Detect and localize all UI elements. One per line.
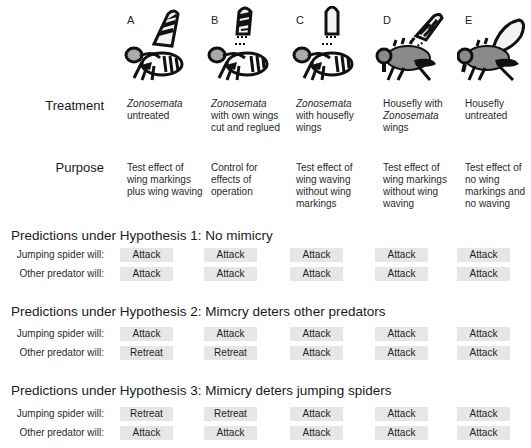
- h2-other-d: Attack: [375, 346, 428, 360]
- h2-other-predator-label: Other predator will:: [0, 347, 104, 358]
- treatment-c-detail: with housefly wings: [296, 110, 354, 133]
- treatment-b-species: Zonosemata: [211, 98, 267, 109]
- h1-spider-a: Attack: [120, 248, 173, 262]
- purpose-e: Test effect of no wing markings and no w…: [465, 162, 531, 210]
- purpose-d: Test effect of wing markings without win…: [383, 162, 461, 210]
- h1-other-a: Attack: [120, 267, 173, 281]
- purpose-b: Control for effects of operation: [211, 162, 277, 198]
- h1-spider-c: Attack: [290, 248, 343, 262]
- treatment-a-detail: untreated: [127, 110, 169, 121]
- h2-spider-b: Attack: [204, 327, 257, 341]
- treatment-b-detail: with own wings cut and reglued: [211, 110, 280, 133]
- zonosemata-fly-clear-wing-icon-c: [290, 6, 362, 84]
- h2-spider-d: Attack: [375, 327, 428, 341]
- treatment-d-species: Zonosemata: [383, 110, 439, 121]
- h1-other-b: Attack: [204, 267, 257, 281]
- h2-spider-e: Attack: [457, 327, 510, 341]
- treatment-a: Zonosemata untreated: [127, 98, 209, 122]
- h3-spider-a: Retreat: [120, 407, 173, 421]
- h3-other-b: Attack: [204, 426, 257, 440]
- h2-jumping-spider-label: Jumping spider will:: [0, 328, 104, 339]
- h3-jumping-spider-label: Jumping spider will:: [0, 408, 104, 419]
- treatment-label: Treatment: [0, 98, 104, 113]
- h3-other-d: Attack: [375, 426, 428, 440]
- zonosemata-fly-icon-a: [122, 6, 194, 84]
- h3-other-c: Attack: [290, 426, 343, 440]
- h1-other-predator-label: Other predator will:: [0, 268, 104, 279]
- h1-spider-d: Attack: [375, 248, 428, 262]
- housefly-clear-wing-icon-e: [457, 6, 529, 84]
- treatment-e: Housefly untreated: [465, 98, 517, 122]
- treatment-d-prefix: Housefly with: [383, 98, 442, 109]
- treatment-c: Zonosemata with housefly wings: [296, 98, 372, 134]
- treatment-b: Zonosemata with own wings cut and reglue…: [211, 98, 287, 134]
- housefly-striped-wing-icon-d: [374, 6, 446, 84]
- h3-other-a: Attack: [120, 426, 173, 440]
- purpose-a: Test effect of wing markings plus wing w…: [127, 162, 203, 198]
- h3-spider-c: Attack: [290, 407, 343, 421]
- h2-other-b: Retreat: [204, 346, 257, 360]
- treatment-d-detail: wings: [383, 122, 409, 133]
- h1-spider-b: Attack: [204, 248, 257, 262]
- h1-spider-e: Attack: [457, 248, 510, 262]
- h3-spider-d: Attack: [375, 407, 428, 421]
- treatment-c-species: Zonosemata: [296, 98, 352, 109]
- h3-spider-b: Retreat: [204, 407, 257, 421]
- treatment-d: Housefly with Zonosemata wings: [383, 98, 455, 134]
- h1-other-e: Attack: [457, 267, 510, 281]
- h1-jumping-spider-label: Jumping spider will:: [0, 249, 104, 260]
- h2-other-e: Attack: [457, 346, 510, 360]
- hypothesis-2-title: Predictions under Hypothesis 2: Mimcry d…: [11, 304, 385, 319]
- h1-other-d: Attack: [375, 267, 428, 281]
- h2-other-a: Retreat: [120, 346, 173, 360]
- purpose-label: Purpose: [0, 160, 104, 175]
- h3-spider-e: Attack: [457, 407, 510, 421]
- h2-spider-c: Attack: [290, 327, 343, 341]
- hypothesis-1-title: Predictions under Hypothesis 1: No mimic…: [11, 228, 273, 243]
- purpose-c: Test effect of wing waving without wing …: [296, 162, 372, 210]
- zonosemata-fly-reglued-icon-b: [205, 6, 277, 84]
- h2-other-c: Attack: [290, 346, 343, 360]
- h1-other-c: Attack: [290, 267, 343, 281]
- h3-other-predator-label: Other predator will:: [0, 427, 104, 438]
- hypothesis-3-title: Predictions under Hypothesis 3: Mimicry …: [11, 383, 391, 398]
- h2-spider-a: Attack: [120, 327, 173, 341]
- treatment-e-prefix: Housefly untreated: [465, 98, 507, 121]
- treatment-a-species: Zonosemata: [127, 98, 183, 109]
- h3-other-e: Attack: [457, 426, 510, 440]
